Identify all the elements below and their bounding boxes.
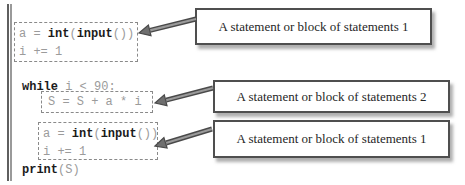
annotation-label: A statement or block of statements 2 <box>237 89 427 105</box>
code-annotation-diagram: a = int(input()) i += 1 while i < 90: S … <box>0 0 465 185</box>
code-line-sum: S = S + a * i <box>48 93 146 111</box>
keyword-print: print <box>22 163 58 177</box>
code-line-increment: i += 1 <box>43 143 153 161</box>
code-line-print: print(S) <box>22 161 80 179</box>
code-line-assign: a = int(input()) <box>19 25 133 43</box>
annotation-arrow-2 <box>155 88 213 106</box>
left-border-bar <box>7 4 13 181</box>
annotation-box-2: A statement or block of statements 2 <box>213 80 450 113</box>
code-line-increment: i += 1 <box>19 43 133 61</box>
code-block-reinit: a = int(input()) i += 1 <box>38 122 158 160</box>
annotation-label: A statement or block of statements 1 <box>219 19 409 35</box>
keyword-input: input <box>101 127 137 141</box>
code-token: a = <box>19 27 48 41</box>
code-token: (S) <box>58 163 80 177</box>
code-token: a = <box>43 127 72 141</box>
annotation-label: A statement or block of statements 1 <box>237 131 427 147</box>
keyword-int: int <box>48 27 70 41</box>
annotation-arrow-3 <box>155 129 212 148</box>
code-token: ( <box>69 27 76 41</box>
code-line-assign: a = int(input()) <box>43 125 153 143</box>
keyword-input: input <box>77 27 113 41</box>
code-block-init: a = int(input()) i += 1 <box>14 22 138 62</box>
code-token: ()) <box>113 27 135 41</box>
annotation-box-1: A statement or block of statements 1 <box>195 8 432 45</box>
annotation-box-3: A statement or block of statements 1 <box>213 120 450 158</box>
code-token: ( <box>93 127 100 141</box>
keyword-int: int <box>72 127 94 141</box>
code-token: ()) <box>137 127 159 141</box>
annotation-arrow-1 <box>139 19 196 36</box>
code-block-loop-body: S = S + a * i <box>41 91 153 113</box>
